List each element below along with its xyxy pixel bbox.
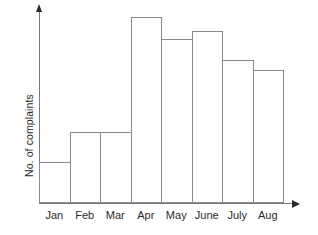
bar-july: [222, 60, 254, 203]
x-axis-line: [39, 203, 293, 204]
bar-mar: [100, 132, 132, 203]
bar-june: [192, 31, 224, 203]
x-axis-label-july: July: [222, 206, 253, 224]
bar-chart: No. of complaints JanFebMarAprMayJuneJul…: [0, 0, 318, 235]
x-axis-label-june: June: [192, 206, 223, 224]
x-axis-label-may: May: [161, 206, 192, 224]
bar-aug: [253, 70, 285, 203]
bar-feb: [70, 132, 102, 203]
x-axis-arrow-icon: [292, 200, 300, 208]
y-axis-title: No. of complaints: [22, 17, 36, 177]
x-axis-label-feb: Feb: [70, 206, 101, 224]
x-axis-label-apr: Apr: [131, 206, 162, 224]
x-axis-label-aug: Aug: [253, 206, 284, 224]
bar-apr: [131, 17, 163, 203]
x-axis-label-jan: Jan: [39, 206, 70, 224]
bar-jan: [39, 162, 71, 203]
x-axis-tick-labels: JanFebMarAprMayJuneJulyAug: [39, 206, 283, 226]
bar-series: [39, 8, 283, 203]
x-axis-label-mar: Mar: [100, 206, 131, 224]
bar-may: [161, 39, 193, 203]
